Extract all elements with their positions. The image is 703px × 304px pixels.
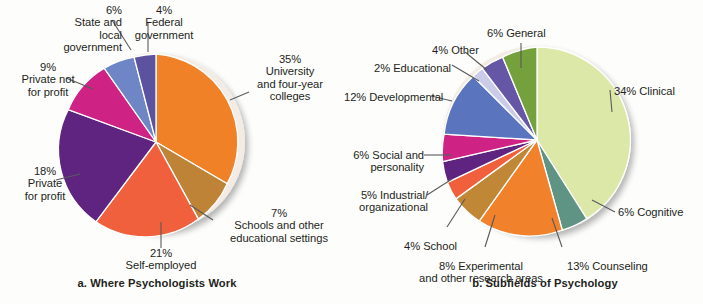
- label-state-and-local-government: 6% State and local government: [6, 4, 122, 54]
- label-private-not-for-profit: 9% Private not for profit: [0, 61, 96, 98]
- two-pie-chart-figure: 6% State and local government 4% Federal…: [0, 0, 703, 304]
- label-school: 4% School: [404, 240, 484, 252]
- label-other: 4% Other: [432, 44, 512, 56]
- label-private-for-profit: 18% Private for profit: [0, 165, 90, 202]
- label-social-and-personality: 6% Social and personality: [342, 149, 424, 174]
- label-federal-government: 4% Federal government: [122, 4, 206, 41]
- caption-where-psychologists-work: a. Where Psychologists Work: [62, 277, 252, 289]
- label-developmental: 12% Developmental: [344, 91, 460, 103]
- leader-school: [447, 199, 465, 227]
- label-schools-and-other-educational-settings: 7% Schools and other educational setting…: [204, 207, 354, 244]
- label-industrial-organizational: 5% Industrial/ organizational: [336, 189, 428, 214]
- caption-subfields-of-psychology: b. Subfields of Psychology: [450, 277, 640, 289]
- label-self-employed: 21% Self-employed: [104, 247, 218, 272]
- label-counseling: 13% Counseling: [567, 260, 677, 272]
- label-university-and-four-year-colleges: 35% University and four-year colleges: [235, 53, 345, 103]
- label-clinical: 34% Clinical: [614, 85, 702, 97]
- leader-industrial-organizational: [427, 179, 452, 195]
- label-general: 6% General: [487, 27, 597, 39]
- label-educational: 2% Educational: [374, 62, 484, 74]
- label-cognitive: 6% Cognitive: [618, 206, 703, 218]
